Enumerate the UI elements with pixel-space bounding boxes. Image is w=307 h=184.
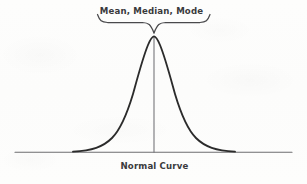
curly-brace-left-half <box>98 15 155 33</box>
curly-brace <box>98 15 211 33</box>
axis-label-normal-curve: Normal Curve <box>1 161 307 171</box>
curly-brace-right-half <box>154 15 210 33</box>
normal-curve-figure: Mean, Median, Mode Normal Curve <box>0 0 307 184</box>
brace-label-mean-median-mode: Mean, Median, Mode <box>0 6 305 16</box>
normal-curve-drawing <box>0 0 307 184</box>
